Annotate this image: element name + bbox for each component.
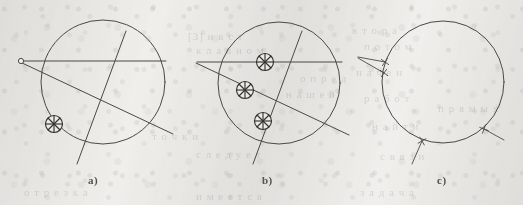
panel-c	[358, 21, 504, 164]
panel-b-circled-cross-marker-1	[257, 54, 274, 71]
panel-b-circle	[218, 22, 340, 144]
panel-label-b: b)	[262, 174, 273, 186]
figure-container: [3] и в с тк л а в н о мв т о р ап о т о…	[0, 0, 523, 205]
panel-b	[196, 22, 349, 164]
panel-b-circled-cross-marker-3	[255, 113, 272, 130]
panel-label-c: c)	[437, 174, 447, 186]
panel-b-circled-cross-marker-2	[237, 82, 254, 99]
panel-a-circled-cross-marker-1	[46, 116, 63, 133]
panel-a-open-endpoint	[18, 58, 23, 63]
panel-a	[18, 20, 173, 164]
panels-layer: a)b)c)	[0, 0, 523, 205]
panel-label-a: a)	[88, 174, 98, 186]
panel-c-stub-lower-right	[484, 129, 504, 140]
panel-b-oblique-chord	[196, 63, 349, 135]
panel-c-stub-bottom	[412, 141, 422, 164]
